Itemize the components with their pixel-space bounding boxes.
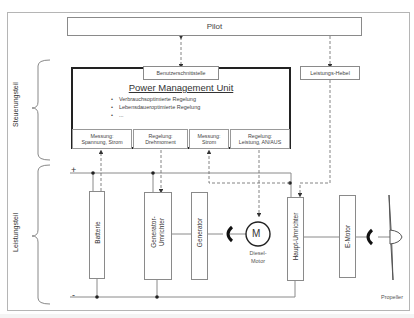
battery-label: Batterie (94, 203, 101, 263)
power-lever-label: Leistungs-Hebel (310, 70, 350, 76)
module-detail: Leistung, AN/AUS (239, 139, 281, 145)
label-line: Generator- (150, 216, 157, 247)
module-detail: Strom (202, 139, 216, 145)
interface-box[interactable]: Benutzerschnittstelle (143, 66, 219, 80)
lever-inverter-link (300, 80, 330, 195)
label-line: Umrichter (158, 218, 165, 246)
interface-label: Benutzerschnittstelle (157, 70, 206, 76)
module-power-control: Regelung:Leistung, AN/AUS (230, 129, 290, 149)
control-brace (32, 60, 50, 160)
pmu-strategy-item: Lebensdaueroptimierte Regelung (111, 103, 200, 111)
pmu-title: Power Management Unit (73, 82, 289, 93)
generator-inverter-label: Generator-Umrichter (150, 202, 166, 262)
diesel-label: Diesel-Motor (244, 249, 272, 265)
pilot-box: Pilot (67, 17, 362, 36)
diesel-symbol: M (252, 228, 260, 239)
module-title: Messung: (91, 133, 114, 139)
current-measure-link (209, 152, 290, 183)
emotor-label: E-Motor (344, 207, 351, 267)
pmu-strategy-item: Verbrauchsoptimierte Regelung (111, 95, 200, 103)
module-current: Messung:Strom (189, 129, 229, 149)
minus-bus-label: - (72, 290, 75, 300)
junction-dot (151, 171, 155, 175)
label-line: Motor (251, 258, 265, 264)
power-section-label: Leistungsteil (12, 203, 19, 263)
module-torque-control: Regelung:Drehmoment (133, 129, 188, 149)
junction-dot (155, 295, 159, 299)
module-title: Messung: (198, 133, 221, 139)
plus-bus-label: + (71, 165, 76, 175)
module-title: Regelung: (148, 133, 172, 139)
propeller-label: Propeller (381, 294, 403, 300)
control-section-label: Steuerungsteil (12, 75, 19, 135)
module-detail: Drehmoment (145, 139, 176, 145)
junction-dot (91, 171, 95, 175)
module-voltage-current: Messung:Spannung, Strom (72, 129, 132, 149)
power-lever-box[interactable]: Leistungs-Hebel (300, 66, 360, 80)
module-detail: Spannung, Strom (81, 139, 122, 145)
label-line: Diesel- (249, 250, 266, 256)
power-brace (32, 165, 50, 304)
pmu-strategy-item: ... (111, 111, 200, 119)
main-inverter-label: Haupt-Umrichter (292, 202, 299, 272)
generator-label: Generator (196, 203, 203, 263)
junction-dot (95, 295, 99, 299)
module-title: Regelung: (248, 133, 272, 139)
propeller-icon (389, 195, 402, 280)
pilot-label: Pilot (207, 22, 223, 31)
pmu-strategy-list: Verbrauchsoptimierte Regelung Lebensdaue… (111, 95, 200, 119)
caption-remnant (0, 314, 414, 318)
